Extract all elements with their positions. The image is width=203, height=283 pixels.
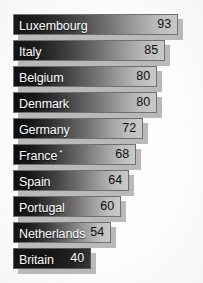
bar-germany[interactable]: Germany 72 bbox=[13, 118, 143, 139]
bar-value-germany: 72 bbox=[122, 122, 142, 135]
bar-value-belgium: 80 bbox=[136, 70, 156, 83]
bar-label-germany: Germany bbox=[14, 120, 72, 137]
bar-france[interactable]: France* 68 bbox=[13, 144, 136, 165]
bar-italy[interactable]: Italy 85 bbox=[13, 40, 165, 61]
bar-label-britain: Britain bbox=[14, 250, 56, 267]
bar-chart: Luxembourg 93 Italy 85 Belgium 80 Denmar… bbox=[0, 0, 203, 283]
bar-belgium[interactable]: Belgium 80 bbox=[13, 66, 157, 87]
bar-value-italy: 85 bbox=[144, 44, 164, 57]
bar-luxembourg[interactable]: Luxembourg 93 bbox=[13, 14, 178, 35]
bar-label-italy: Italy bbox=[14, 42, 43, 59]
bar-portugal[interactable]: Portugal 60 bbox=[13, 196, 121, 217]
bar-value-portugal: 60 bbox=[100, 200, 120, 213]
bar-value-luxembourg: 93 bbox=[157, 18, 177, 31]
bar-value-britain: 40 bbox=[70, 252, 90, 265]
bar-label-spain: Spain bbox=[14, 172, 52, 189]
bar-label-france: France* bbox=[14, 146, 62, 163]
bar-value-netherlands: 54 bbox=[90, 226, 110, 239]
bar-spain[interactable]: Spain 64 bbox=[13, 170, 129, 191]
bar-value-spain: 64 bbox=[108, 174, 128, 187]
bar-label-denmark: Denmark bbox=[14, 94, 71, 111]
bar-label-portugal: Portugal bbox=[14, 198, 67, 215]
bar-label-netherlands: Netherlands bbox=[14, 224, 87, 241]
bar-netherlands[interactable]: Netherlands 54 bbox=[13, 222, 111, 243]
bar-label-belgium: Belgium bbox=[14, 68, 65, 85]
bar-value-denmark: 80 bbox=[136, 96, 156, 109]
bar-denmark[interactable]: Denmark 80 bbox=[13, 92, 157, 113]
bar-label-luxembourg: Luxembourg bbox=[14, 16, 90, 33]
bar-marker-asterisk: * bbox=[59, 148, 62, 157]
bar-value-france: 68 bbox=[115, 148, 135, 161]
bar-britain[interactable]: Britain 40 bbox=[13, 248, 91, 269]
